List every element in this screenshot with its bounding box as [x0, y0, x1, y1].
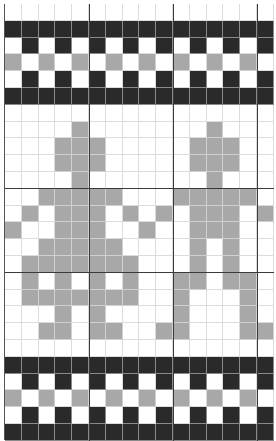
grid-cell	[139, 256, 156, 273]
grid-cell	[55, 138, 72, 155]
grid-cell	[156, 4, 173, 21]
grid-cell	[207, 222, 224, 239]
grid-cell	[257, 105, 274, 122]
grid-cell	[72, 122, 89, 139]
grid-cell	[89, 256, 106, 273]
grid-cell	[106, 105, 123, 122]
grid-cell	[173, 54, 190, 71]
grid-cell	[106, 374, 123, 391]
grid-cell	[257, 323, 274, 340]
grid-cell	[123, 88, 140, 105]
grid-cell	[207, 206, 224, 223]
grid-cell	[240, 424, 257, 441]
grid-cell	[39, 155, 56, 172]
grid-cell	[89, 189, 106, 206]
grid-cell	[22, 105, 39, 122]
grid-cell	[173, 306, 190, 323]
grid-cell	[72, 306, 89, 323]
grid-cell	[22, 54, 39, 71]
grid-cell	[240, 206, 257, 223]
grid-cell	[207, 4, 224, 21]
grid-cell	[39, 105, 56, 122]
grid-cell	[156, 122, 173, 139]
grid-cell	[89, 407, 106, 424]
grid-cell	[207, 357, 224, 374]
grid-cell	[123, 54, 140, 71]
grid-cell	[257, 290, 274, 307]
grid-cell	[123, 21, 140, 38]
grid-cell	[223, 290, 240, 307]
grid-cell	[5, 71, 22, 88]
grid-cell	[190, 340, 207, 357]
grid-cell	[223, 155, 240, 172]
grid-cell	[22, 138, 39, 155]
grid-cell	[55, 4, 72, 21]
grid-cell	[257, 306, 274, 323]
grid-cell	[123, 239, 140, 256]
grid-cell	[240, 357, 257, 374]
grid-cell	[39, 122, 56, 139]
grid-cell	[207, 172, 224, 189]
grid-cell	[190, 38, 207, 55]
grid-cell	[139, 38, 156, 55]
grid-cell	[240, 88, 257, 105]
grid-cell	[173, 340, 190, 357]
grid-cell	[22, 239, 39, 256]
grid-cell	[39, 88, 56, 105]
grid-cell	[39, 407, 56, 424]
grid-cell	[22, 323, 39, 340]
grid-cell	[190, 424, 207, 441]
grid-cell	[22, 172, 39, 189]
grid-cell	[156, 155, 173, 172]
grid-cell	[22, 256, 39, 273]
grid-cell	[106, 273, 123, 290]
grid-cell	[22, 374, 39, 391]
grid-cell	[55, 71, 72, 88]
grid-cell	[190, 357, 207, 374]
grid-cell	[156, 54, 173, 71]
grid-cell	[89, 390, 106, 407]
grid-cell	[123, 256, 140, 273]
grid-cell	[223, 424, 240, 441]
grid-cell	[39, 38, 56, 55]
grid-cell	[106, 390, 123, 407]
grid-cell	[190, 239, 207, 256]
grid-cell	[55, 38, 72, 55]
grid-cell	[156, 323, 173, 340]
grid-cell	[89, 122, 106, 139]
grid-cell	[156, 38, 173, 55]
grid-cell	[55, 273, 72, 290]
grid-cell	[72, 138, 89, 155]
grid-cell	[190, 407, 207, 424]
grid-cell	[39, 357, 56, 374]
grid-cell	[123, 71, 140, 88]
grid-cell	[55, 54, 72, 71]
grid-cell	[207, 189, 224, 206]
grid-cell	[207, 105, 224, 122]
grid-cell	[5, 357, 22, 374]
grid-cell	[72, 424, 89, 441]
grid-cell	[207, 273, 224, 290]
major-vertical-line	[173, 4, 174, 441]
grid-cell	[190, 105, 207, 122]
grid-cell	[223, 239, 240, 256]
grid-cell	[72, 21, 89, 38]
grid-cell	[139, 239, 156, 256]
grid-cell	[72, 4, 89, 21]
grid-cell	[257, 390, 274, 407]
grid-cell	[223, 105, 240, 122]
grid-cell	[207, 122, 224, 139]
grid-cell	[173, 407, 190, 424]
grid-cell	[123, 390, 140, 407]
grid-cell	[89, 138, 106, 155]
grid-cell	[123, 290, 140, 307]
grid-cell	[72, 239, 89, 256]
grid-cell	[207, 424, 224, 441]
grid-cell	[257, 189, 274, 206]
grid-cell	[106, 54, 123, 71]
grid-cell	[106, 21, 123, 38]
grid-cell	[156, 88, 173, 105]
grid-cell	[156, 71, 173, 88]
grid-cell	[55, 424, 72, 441]
grid-cell	[106, 290, 123, 307]
